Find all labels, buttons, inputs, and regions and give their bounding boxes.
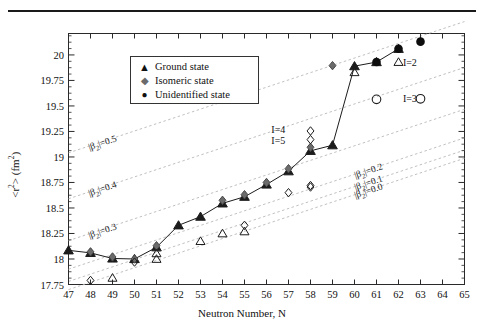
data-point-open-triangle: [394, 58, 403, 66]
data-point-open-circle: [416, 95, 425, 104]
legend-label: Isomeric state: [153, 76, 214, 87]
x-tick-label: 51: [151, 289, 162, 300]
y-tick-label: 18.25: [8, 228, 64, 239]
reference-line-3: [69, 138, 465, 269]
x-tick-label: 55: [239, 289, 250, 300]
data-point-filled-diamond: [329, 61, 336, 69]
y-axis-title: <r2> (fm2): [7, 135, 21, 215]
x-tick-label: 53: [195, 289, 206, 300]
x-tick-marks: [69, 34, 465, 285]
data-point-open-circle: [372, 95, 381, 104]
legend-label: Ground state: [153, 62, 209, 73]
figure-root: 17.751818.2518.518.751919.2519.519.7520 …: [0, 0, 484, 329]
y-tick-label: 19.75: [8, 75, 64, 86]
x-tick-label: 64: [437, 289, 448, 300]
legend-box: ▲ Ground state ◆ Isomeric state ● Uniden…: [130, 56, 259, 104]
x-tick-label: 63: [415, 289, 426, 300]
x-tick-label: 61: [371, 289, 382, 300]
data-point-filled-circle: [416, 37, 425, 46]
x-tick-label: 57: [283, 289, 294, 300]
filled-diamond-icon: ◆: [136, 76, 153, 86]
data-point-open-diamond: [241, 221, 248, 229]
data-point-filled-triangle: [196, 212, 206, 220]
spin-label-I5: I=5: [271, 135, 285, 146]
y-tick-label: 18: [8, 253, 64, 264]
data-point-open-triangle: [152, 255, 161, 263]
x-tick-label: 59: [327, 289, 338, 300]
spin-label-I3: I=3: [403, 93, 417, 104]
x-tick-label: 48: [85, 289, 96, 300]
data-point-filled-circle: [372, 58, 381, 67]
reference-line-2: [69, 109, 465, 240]
filled-triangle-icon: ▲: [136, 62, 153, 73]
y-tick-label: 20: [8, 49, 64, 60]
x-tick-label: 50: [129, 289, 140, 300]
x-tick-label: 62: [393, 289, 404, 300]
data-point-filled-triangle: [328, 141, 338, 149]
y-tick-marks: [69, 36, 465, 285]
y-tick-label: 19.5: [8, 100, 64, 111]
filled-circle-icon: ●: [136, 90, 153, 100]
plot-canvas: [0, 0, 484, 329]
legend-item-unidentified-state: ● Unidentified state: [136, 88, 253, 102]
legend-label: Unidentified state: [153, 90, 230, 101]
data-point-filled-circle: [394, 45, 403, 54]
x-tick-label: 58: [305, 289, 316, 300]
data-point-open-triangle: [196, 237, 205, 245]
data-point-open-diamond: [307, 127, 314, 135]
x-tick-label: 60: [349, 289, 360, 300]
reference-line-4: [69, 150, 465, 281]
x-tick-label: 49: [107, 289, 118, 300]
spin-label-I2: I=2: [403, 57, 417, 68]
x-tick-label: 52: [173, 289, 184, 300]
x-axis-title: Neutron Number, N: [0, 307, 484, 319]
x-tick-label: 56: [261, 289, 272, 300]
data-point-filled-triangle: [174, 221, 184, 229]
y-tick-label: 17.75: [8, 279, 64, 290]
legend-item-isomeric-state: ◆ Isomeric state: [136, 74, 253, 88]
x-tick-label: 47: [63, 289, 74, 300]
x-tick-label: 65: [459, 289, 470, 300]
legend-item-ground-state: ▲ Ground state: [136, 60, 253, 74]
reference-line-0: [69, 22, 465, 153]
x-tick-label: 54: [217, 289, 228, 300]
data-point-filled-triangle: [64, 246, 74, 254]
data-point-open-diamond: [285, 188, 292, 196]
